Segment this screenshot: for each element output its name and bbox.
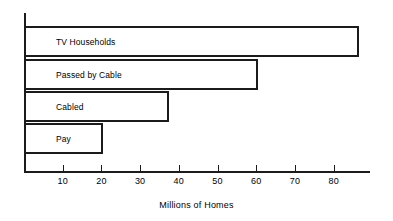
x-tick-label: 60 [251,177,261,186]
x-tick-label: 50 [212,177,222,186]
x-tick-mark [179,165,180,172]
x-tick-mark [256,165,257,172]
bars-layer: TV HouseholdsPassed by CableCabledPay [0,0,393,221]
x-axis-title: Millions of Homes [0,200,393,210]
x-tick-mark [218,165,219,172]
x-tick-label: 80 [328,177,338,186]
x-tick-mark [101,165,102,172]
bar-label: Passed by Cable [56,71,122,80]
bar-cabled [24,91,169,122]
bar-label: Pay [56,135,71,144]
x-tick-label: 30 [135,177,145,186]
bar-chart: TV HouseholdsPassed by CableCabledPay Mi… [0,0,393,221]
x-tick-mark [63,165,64,172]
x-tick-mark [334,165,335,172]
bar-label: Cabled [56,103,84,112]
bar-label: TV Households [56,38,115,47]
x-tick-label: 10 [57,177,67,186]
x-tick-mark [140,165,141,172]
x-tick-label: 70 [290,177,300,186]
x-tick-label: 40 [174,177,184,186]
x-tick-label: 20 [96,177,106,186]
x-tick-mark [295,165,296,172]
